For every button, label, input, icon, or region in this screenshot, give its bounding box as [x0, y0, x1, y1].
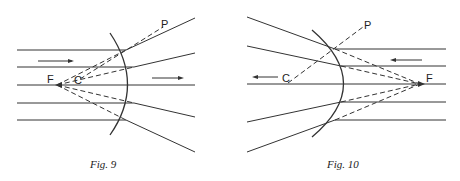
fig10-label-p: P [364, 19, 371, 31]
fig9-caption: Fig. 9 [89, 158, 117, 170]
fig9-arrow-in-head [68, 59, 74, 63]
fig10-caption: Fig. 10 [326, 158, 359, 170]
fig9-virtual-4 [57, 85, 134, 103]
fig10-normal-cp [288, 27, 363, 83]
fig10-arrow-out-head [252, 75, 258, 79]
fig10-virtual-2 [341, 66, 420, 84]
fig10-label-f: F [426, 72, 433, 84]
fig10-reflected-5 [247, 120, 335, 152]
fig9-label-c: C [74, 74, 82, 86]
fig9-arrow-out-head [178, 76, 184, 80]
fig9-focus-marker [55, 82, 62, 88]
fig9-label-f: F [47, 73, 54, 85]
fig9-reflected-2 [134, 53, 195, 67]
fig9-label-p: P [161, 18, 168, 30]
fig9-reflected-5 [126, 120, 195, 152]
fig10-focus-marker [418, 81, 425, 87]
fig10-reflected-1 [247, 17, 335, 49]
optics-diagram: F C P Fig. 9 F C P Fig. 10 [0, 0, 460, 181]
fig10-reflected-4 [247, 102, 341, 122]
fig10-label-c: C [282, 72, 290, 84]
fig10-reflected-2 [247, 46, 341, 66]
fig10-arrow-in-head [390, 58, 396, 62]
fig10-diagram [247, 17, 446, 152]
fig9-diagram [17, 18, 195, 152]
fig9-reflected-4 [134, 103, 195, 117]
fig9-normal-cp [80, 27, 163, 79]
fig10-virtual-4 [341, 84, 420, 102]
